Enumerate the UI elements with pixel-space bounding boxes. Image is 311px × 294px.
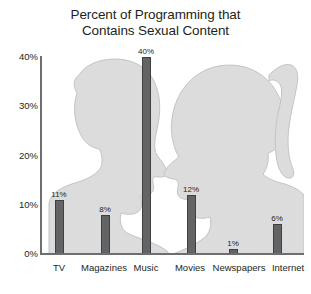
chart-figure: Percent of Programming that Contains Sex… (0, 0, 311, 294)
bar-group-movies: 12% (171, 185, 211, 254)
bar-movies[interactable] (187, 195, 196, 254)
bar-group-tv: 11% (39, 190, 79, 254)
x-tick-label-newspapers: Newspapers (208, 262, 270, 273)
bar-group-newspapers: 1% (213, 239, 253, 254)
plot-area: 11% 8% 40% 12% 1% 6% (41, 57, 304, 254)
chart-title-line-2: Contains Sexual Content (0, 23, 311, 39)
y-tick-label-20: 20% (4, 151, 38, 161)
bar-music[interactable] (142, 57, 151, 254)
bar-value-internet: 6% (257, 214, 297, 223)
bar-magazines[interactable] (101, 215, 110, 254)
y-tick-label-30: 30% (4, 101, 38, 111)
chart-title-line-1: Percent of Programming that (0, 7, 311, 23)
bar-tv[interactable] (55, 200, 64, 254)
chart-title: Percent of Programming that Contains Sex… (0, 7, 311, 39)
bar-group-internet: 6% (257, 214, 297, 254)
bar-value-tv: 11% (39, 190, 79, 199)
bar-group-music: 40% (126, 47, 166, 254)
x-tick-label-tv: TV (39, 262, 79, 273)
bar-group-magazines: 8% (85, 205, 125, 254)
x-axis-line (40, 253, 304, 255)
y-axis: 40% 30% 20% 10% 0% (0, 0, 38, 294)
bar-internet[interactable] (273, 224, 282, 254)
y-tick-label-0: 0% (4, 249, 38, 259)
y-axis-line (40, 56, 42, 255)
bar-value-newspapers: 1% (213, 239, 253, 248)
x-tick-label-music: Music (126, 262, 166, 273)
x-tick-label-internet: Internet (265, 262, 311, 273)
bar-value-magazines: 8% (85, 205, 125, 214)
bar-value-music: 40% (126, 47, 166, 56)
x-tick-label-movies: Movies (168, 262, 212, 273)
x-tick-label-magazines: Magazines (78, 262, 130, 273)
y-tick-label-40: 40% (4, 52, 38, 62)
bar-value-movies: 12% (171, 185, 211, 194)
y-tick-label-10: 10% (4, 200, 38, 210)
